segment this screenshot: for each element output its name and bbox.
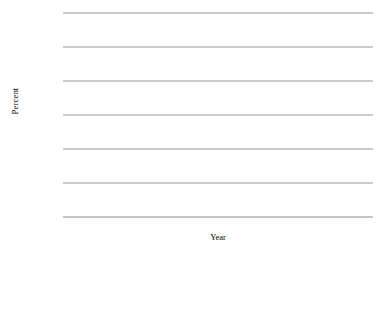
line-chart: Percent Year bbox=[0, 0, 383, 311]
y-axis-title: Percent bbox=[10, 73, 20, 129]
x-axis-title: Year bbox=[63, 232, 373, 242]
plot-area bbox=[0, 0, 383, 311]
